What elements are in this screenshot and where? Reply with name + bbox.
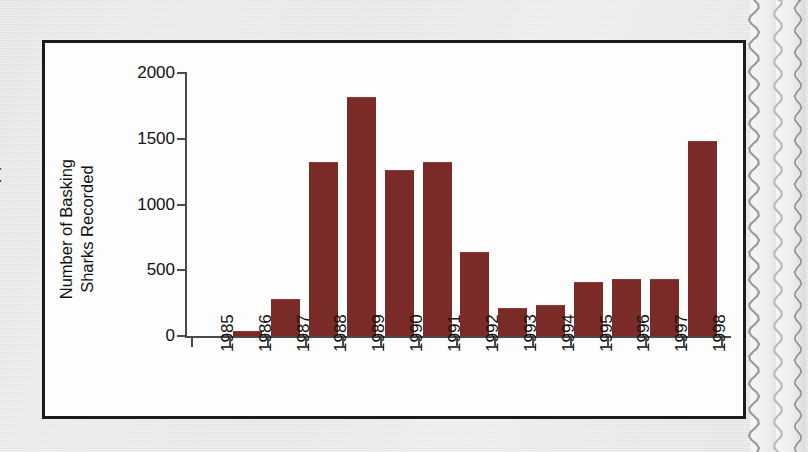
- x-axis-label-1998: 1998: [710, 314, 730, 352]
- x-axis-tick: [721, 338, 723, 347]
- x-axis-tick: [380, 338, 382, 347]
- x-axis-tick: [267, 338, 269, 347]
- x-axis-tick: [570, 338, 572, 347]
- y-axis-tick: [177, 138, 186, 140]
- y-axis-tick-label: 2000: [137, 63, 175, 83]
- x-axis-tick: [229, 338, 231, 347]
- bar-1998: [688, 141, 717, 336]
- y-axis-tick-label: 1000: [137, 195, 175, 215]
- y-axis-tick: [177, 204, 186, 206]
- cut-off-text-glyph: t: [0, 160, 8, 186]
- x-axis-tick: [645, 338, 647, 347]
- x-axis-tick: [494, 338, 496, 347]
- x-axis-tick: [607, 338, 609, 347]
- chart-frame: Number of Basking Sharks Recorded 050010…: [42, 40, 746, 419]
- y-axis-tick-label: 500: [147, 260, 175, 280]
- x-axis-tick: [532, 338, 534, 347]
- y-axis-title-line-1: Number of Basking: [56, 159, 77, 299]
- bar-1991: [423, 162, 452, 336]
- bar-chart: Number of Basking Sharks Recorded 050010…: [45, 43, 743, 416]
- x-axis-tick: [683, 338, 685, 347]
- x-axis-tick: [305, 338, 307, 347]
- x-axis-tick: [456, 338, 458, 347]
- y-axis-title-line-2: Sharks Recorded: [77, 159, 98, 299]
- y-axis-tick-label: 0: [166, 326, 175, 346]
- y-axis-tick: [177, 269, 186, 271]
- x-axis-tick: [191, 338, 193, 347]
- y-axis-title: Number of Basking Sharks Recorded: [49, 43, 105, 416]
- y-axis-tick: [177, 335, 186, 337]
- x-axis-tick: [342, 338, 344, 347]
- bar-1989: [347, 97, 376, 336]
- y-axis-tick: [177, 72, 186, 74]
- bar-1990: [385, 170, 414, 336]
- y-axis-tick-label: 1500: [137, 129, 175, 149]
- y-axis-tick-labels: 0500100015002000: [103, 43, 181, 416]
- bar-1988: [309, 162, 338, 336]
- plot-area: 1985198619871988198919901991199219931994…: [185, 43, 735, 416]
- x-axis-tick: [418, 338, 420, 347]
